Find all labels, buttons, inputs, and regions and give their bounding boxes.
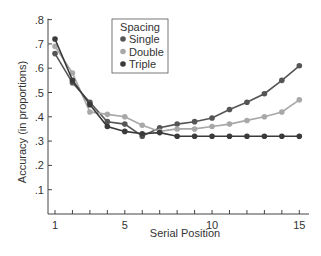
data-point [279, 109, 285, 115]
data-point [174, 126, 180, 132]
legend-title: Spacing [120, 21, 160, 33]
data-point [87, 102, 93, 108]
data-point [227, 133, 233, 139]
data-point [279, 78, 285, 84]
data-point [297, 97, 303, 103]
x-axis-label: Serial Position [150, 227, 220, 239]
y-tick-label: .2 [35, 159, 44, 171]
data-point [262, 133, 268, 139]
y-tick-label: .3 [35, 135, 44, 147]
data-point [279, 133, 285, 139]
y-tick-label: .5 [35, 87, 44, 99]
data-point [52, 51, 58, 57]
data-point [297, 133, 303, 139]
axes: .1.2.3.4.5.6.7.8151015 [35, 14, 309, 231]
data-point [122, 129, 128, 135]
data-point [227, 121, 233, 127]
legend-marker-triple [120, 61, 126, 67]
data-point [105, 124, 111, 130]
legend-marker-single [120, 36, 126, 42]
x-tick-label: 1 [52, 219, 58, 231]
data-point [262, 114, 268, 120]
legend-marker-double [120, 49, 126, 55]
data-point [192, 119, 198, 125]
data-point [209, 133, 215, 139]
data-point [122, 114, 128, 120]
y-tick-label: .8 [35, 14, 44, 26]
data-point [87, 109, 93, 115]
data-point [70, 78, 76, 84]
y-tick-label: .6 [35, 62, 44, 74]
legend-label-single: Single [129, 33, 160, 45]
y-tick-label: .1 [35, 184, 44, 196]
line-chart: .1.2.3.4.5.6.7.8151015 Spacing SingleDou… [0, 0, 321, 256]
data-point [157, 130, 163, 136]
data-point [122, 121, 128, 127]
data-point [209, 124, 215, 130]
y-axis-label: Accuracy (in proportions) [16, 61, 28, 183]
y-tick-label: .7 [35, 38, 44, 50]
y-tick-label: .4 [35, 111, 44, 123]
data-point [209, 115, 215, 121]
data-point [262, 91, 268, 97]
data-point [244, 133, 250, 139]
data-point [297, 63, 303, 69]
legend-label-double: Double [129, 46, 164, 58]
data-point [244, 99, 250, 105]
data-point [174, 133, 180, 139]
data-point [105, 112, 111, 118]
data-point [139, 131, 145, 137]
legend-label-triple: Triple [129, 58, 156, 70]
data-point [139, 123, 145, 129]
data-point [192, 126, 198, 132]
legend: Spacing SingleDoubleTriple [112, 19, 168, 73]
x-tick-label: 15 [293, 219, 305, 231]
series-lines [52, 36, 302, 139]
x-tick-label: 5 [122, 219, 128, 231]
data-point [192, 133, 198, 139]
data-point [52, 36, 58, 42]
data-point [227, 107, 233, 113]
data-point [244, 118, 250, 124]
data-point [174, 121, 180, 127]
